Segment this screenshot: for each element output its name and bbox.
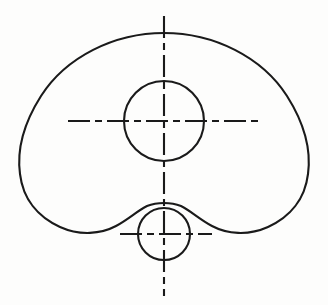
- drawing-svg-root: [0, 0, 328, 305]
- technical-drawing-canvas: [0, 0, 328, 305]
